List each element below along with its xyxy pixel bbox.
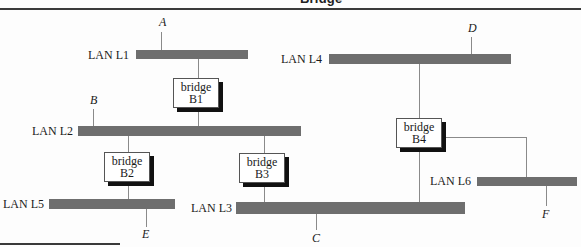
bridge-b4: bridge B4 [396,118,442,148]
b1-l2-link [198,108,199,126]
bridge-b2: bridge B2 [104,152,150,182]
b3-l3-link [264,183,265,202]
station-b-stub [93,109,94,126]
station-f-label: F [542,208,549,220]
bottom-rule [0,243,120,245]
bridged-lan-diagram: Bridge LAN L1 A bridge B1 LAN L4 D LAN L… [0,0,581,247]
station-e-label: E [142,228,149,240]
station-d-label: D [468,22,477,34]
bridge-b3-name: B3 [240,168,284,180]
station-c-stub [316,214,317,230]
lan-l4-bar [329,54,511,64]
b4-l6-link-vertical [526,137,527,177]
lan-l2-bar [78,126,301,136]
b4-l6-link-horizontal [442,137,527,138]
bridge-b1: bridge B1 [173,78,219,108]
station-d-stub [471,37,472,54]
bridge-b1-name: B1 [174,93,218,105]
lan-l1-bar [136,50,248,59]
b1-l1-link [198,59,199,78]
figure-header: Bridge [300,0,342,6]
lan-l3-label: LAN L3 [191,202,232,214]
lan-l2-label: LAN L2 [32,125,73,137]
lan-l6-bar [477,177,577,186]
station-c-label: C [312,232,320,244]
lan-l4-label: LAN L4 [281,53,322,65]
lan-l6-label: LAN L6 [430,175,471,187]
bridge-b4-name: B4 [397,133,441,145]
b2-l2-link [128,136,129,152]
bridge-b3: bridge B3 [239,153,285,183]
lan-l3-bar [236,202,465,214]
station-a-label: A [159,16,166,28]
lan-l5-bar [49,199,175,209]
b3-l2-link [264,136,265,153]
station-a-stub [161,32,162,50]
top-rule [0,8,581,10]
station-f-stub [546,186,547,206]
lan-l1-label: LAN L1 [88,49,129,61]
b2-l5-link [128,182,129,199]
b4-l4-link [419,64,420,118]
bridge-b2-name: B2 [105,167,149,179]
station-e-stub [146,209,147,227]
station-b-label: B [90,94,97,106]
b4-l3-link [419,148,420,202]
lan-l5-label: LAN L5 [3,198,44,210]
